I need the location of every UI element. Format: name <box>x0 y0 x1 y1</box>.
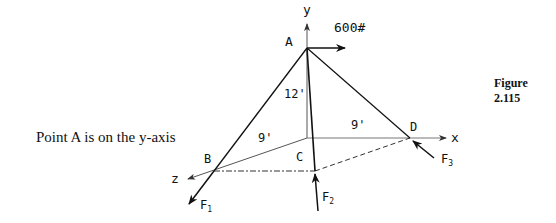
dim-left: 9' <box>258 131 272 145</box>
label-f3: F3 <box>441 152 453 168</box>
edge-ab <box>214 48 307 171</box>
force-f2-arrow <box>315 174 318 211</box>
label-a: A <box>285 34 293 49</box>
label-c: C <box>296 150 303 164</box>
edge-ac <box>307 48 315 171</box>
force-f3-arrow <box>413 141 434 158</box>
dim-right: 9' <box>351 118 365 132</box>
label-load: 600# <box>334 20 365 35</box>
pyramid-diagram: y x z A B C D 600# 12' 9' 9' F1 F2 F3 <box>0 0 556 223</box>
dim-height: 12' <box>284 87 306 101</box>
label-b: B <box>204 152 211 166</box>
label-y: y <box>303 2 311 17</box>
label-f1: F1 <box>200 198 212 214</box>
base-edge-cd <box>315 138 410 171</box>
label-f2: F2 <box>322 190 334 206</box>
label-x: x <box>451 130 459 145</box>
label-z: z <box>171 171 179 186</box>
label-d: D <box>410 120 417 134</box>
